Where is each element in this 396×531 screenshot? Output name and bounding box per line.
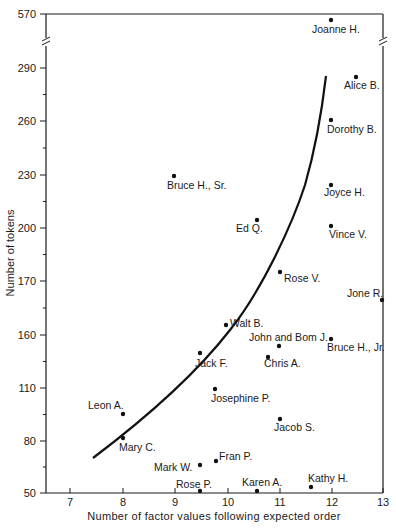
x-tick-label: 7 — [67, 496, 73, 508]
y-tick-label: 50 — [24, 487, 36, 499]
data-point: Alice B. — [344, 75, 380, 91]
y-tick-label: 230 — [18, 169, 36, 181]
x-tick-label: 12 — [326, 496, 338, 508]
y-tick-label: 110 — [18, 382, 36, 394]
point-label: Rose P. — [176, 478, 212, 490]
point-marker-icon — [121, 436, 125, 440]
point-marker-icon — [329, 18, 333, 22]
data-point: Joyce H. — [324, 183, 365, 198]
point-label: Karen A. — [242, 476, 282, 488]
point-label: Josephine P. — [211, 392, 270, 404]
point-label: Jack F. — [195, 357, 228, 369]
x-axis-ticks: 78910111213 — [67, 488, 389, 508]
data-point: Rose P. — [176, 478, 212, 493]
point-marker-icon — [277, 344, 281, 348]
x-axis-label: Number of factor values following expect… — [87, 510, 341, 522]
y-axis-ticks: 5702902602302001701601108050 — [18, 8, 46, 499]
point-marker-icon — [224, 323, 228, 327]
data-point: Mary C. — [119, 436, 156, 453]
data-point: Chris A. — [264, 355, 301, 369]
point-label: Jacob S. — [274, 421, 315, 433]
point-label: Alice B. — [344, 79, 380, 91]
data-point: Mark W. — [154, 461, 202, 473]
y-tick-label: 260 — [18, 115, 36, 127]
point-label: Joanne H. — [312, 23, 360, 35]
y-tick-label: 200 — [18, 222, 36, 234]
point-label: Bruce H., Jr. — [327, 341, 385, 353]
point-marker-icon — [198, 463, 202, 467]
point-marker-icon — [278, 270, 282, 274]
y-tick-label: 570 — [18, 8, 36, 20]
point-label: Joyce H. — [324, 186, 365, 198]
data-point: Walt B. — [224, 317, 264, 329]
point-label: John and Bom J. — [249, 331, 328, 343]
data-point: Bruce H., Jr. — [327, 337, 385, 353]
data-point: Fran P. — [214, 450, 252, 463]
data-point: Leon A. — [88, 399, 125, 416]
point-label: Mary C. — [119, 441, 156, 453]
point-label: Jone R. — [347, 287, 383, 299]
y-tick-label: 80 — [24, 435, 36, 447]
point-label: Kathy H. — [308, 472, 348, 484]
point-label: Walt B. — [230, 317, 263, 329]
y-tick-label: 290 — [18, 62, 36, 74]
point-label: Leon A. — [88, 399, 124, 411]
data-point: Jone R. — [347, 287, 384, 302]
scatter-chart: 5702902602302001701601108050 78910111213… — [0, 0, 396, 531]
point-label: Chris A. — [264, 357, 301, 369]
plot-frame — [46, 14, 383, 493]
data-point: Ed Q. — [236, 218, 263, 234]
data-point: Rose V. — [278, 270, 321, 284]
point-marker-icon — [198, 351, 202, 355]
x-tick-label: 10 — [222, 496, 234, 508]
data-points: Joanne H.Alice B.Dorothy B.Bruce H., Sr.… — [88, 18, 385, 493]
data-point: Karen A. — [242, 476, 282, 493]
x-tick-label: 13 — [377, 496, 389, 508]
x-tick-label: 9 — [172, 496, 178, 508]
point-label: Vince V. — [329, 228, 367, 240]
axis-break-icon — [42, 37, 387, 45]
point-marker-icon — [214, 459, 218, 463]
data-point: Josephine P. — [211, 387, 270, 404]
data-point: Kathy H. — [308, 472, 348, 489]
data-point: Jacob S. — [274, 417, 315, 433]
data-point: Joanne H. — [312, 18, 360, 35]
data-point: John and Bom J. — [249, 331, 328, 348]
point-marker-icon — [329, 118, 333, 122]
point-label: Dorothy B. — [327, 123, 377, 135]
point-label: Bruce H., Sr. — [167, 179, 227, 191]
fitted-curve — [93, 76, 326, 458]
data-point: Bruce H., Sr. — [167, 174, 227, 191]
point-marker-icon — [255, 489, 259, 493]
point-label: Mark W. — [154, 461, 193, 473]
point-label: Fran P. — [219, 450, 252, 462]
point-label: Ed Q. — [236, 222, 263, 234]
x-tick-label: 11 — [274, 496, 285, 508]
x-tick-label: 8 — [120, 496, 126, 508]
point-marker-icon — [172, 174, 176, 178]
point-label: Rose V. — [284, 272, 320, 284]
point-marker-icon — [213, 387, 217, 391]
y-tick-label: 160 — [18, 329, 36, 341]
y-axis-label: Number of tokens — [4, 209, 16, 296]
data-point: Dorothy B. — [327, 118, 377, 135]
data-point: Vince V. — [329, 224, 367, 240]
point-marker-icon — [121, 412, 125, 416]
point-marker-icon — [309, 485, 313, 489]
y-tick-label: 170 — [18, 275, 36, 287]
